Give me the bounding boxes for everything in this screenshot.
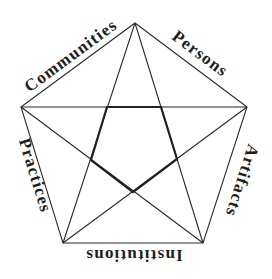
inner-pentagon (91, 107, 177, 192)
label-institutions: Institutions (85, 246, 183, 265)
label-communities: Communities (21, 15, 121, 96)
pentagon-diagram: Communities Persons Artifacts Institutio… (0, 0, 272, 279)
label-practices: Practices (15, 136, 56, 215)
label-artifacts: Artifacts (222, 142, 263, 219)
